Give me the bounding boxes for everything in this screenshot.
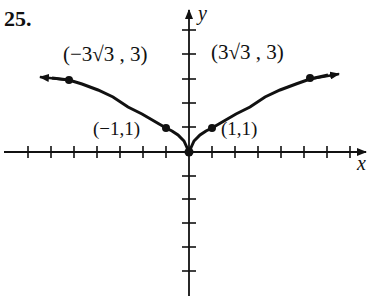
y-axis-label: y [198,2,207,25]
label-3root3-3: (3√3 , 3) [211,40,284,65]
point-3root3-3 [306,74,314,82]
graph [0,0,371,301]
point-origin [185,148,194,157]
point-1-1 [208,124,216,132]
point-neg1-1 [162,124,170,132]
label-1-1: (1,1) [221,118,257,140]
point-neg3root3-3 [65,76,73,84]
label-neg3root3-3: (−3√3 , 3) [63,42,148,67]
label-neg1-1: (−1,1) [93,118,140,140]
x-axis-label: x [357,152,366,175]
